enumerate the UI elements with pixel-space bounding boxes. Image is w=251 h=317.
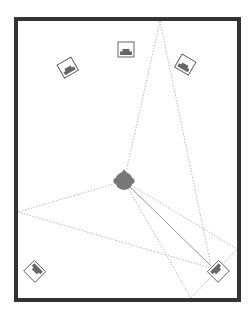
direct-path-line (124, 181, 211, 266)
speaker-center-icon (118, 42, 134, 57)
speaker-front-right-icon (175, 54, 196, 75)
reflection-path-line (18, 181, 124, 212)
speakers (24, 42, 230, 282)
speaker-surround-left-icon (24, 260, 46, 282)
room-walls (16, 19, 239, 300)
speaker-surround-right-icon (207, 260, 229, 282)
reflection-path-line (124, 181, 191, 298)
room-diagram (0, 0, 251, 317)
reflection-path-line (18, 212, 211, 268)
listener-head-icon (113, 169, 134, 190)
reflection-path-line (124, 181, 237, 249)
speaker-front-left-icon (57, 57, 78, 78)
reflection-paths (18, 21, 237, 298)
